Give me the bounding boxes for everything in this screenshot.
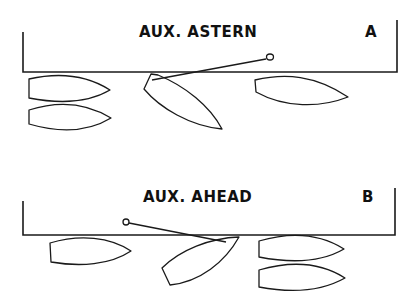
panel-a-title: AUX. ASTERN: [139, 23, 257, 41]
panel-b: AUX. AHEAD B: [23, 188, 395, 290]
mooring-ring-b: [123, 219, 129, 225]
moored-boat: [255, 76, 348, 104]
panel-b-title: AUX. AHEAD: [143, 188, 252, 206]
manoeuvring-boat-a: [144, 74, 222, 129]
panel-a: AUX. ASTERN A: [23, 20, 397, 130]
moored-boat: [50, 238, 131, 265]
spring-line-b: [129, 223, 226, 242]
moored-boat: [29, 76, 110, 102]
manoeuvre-diagram: AUX. ASTERN A AUX. AHEAD B: [0, 0, 418, 304]
spring-line-a: [152, 59, 266, 80]
moored-boat: [259, 236, 344, 261]
manoeuvring-boat-b: [162, 237, 239, 285]
panel-a-label: A: [365, 23, 377, 41]
moored-boat: [259, 264, 345, 290]
mooring-ring-a: [267, 54, 274, 60]
moored-boat: [29, 104, 111, 129]
panel-b-label: B: [362, 188, 374, 206]
